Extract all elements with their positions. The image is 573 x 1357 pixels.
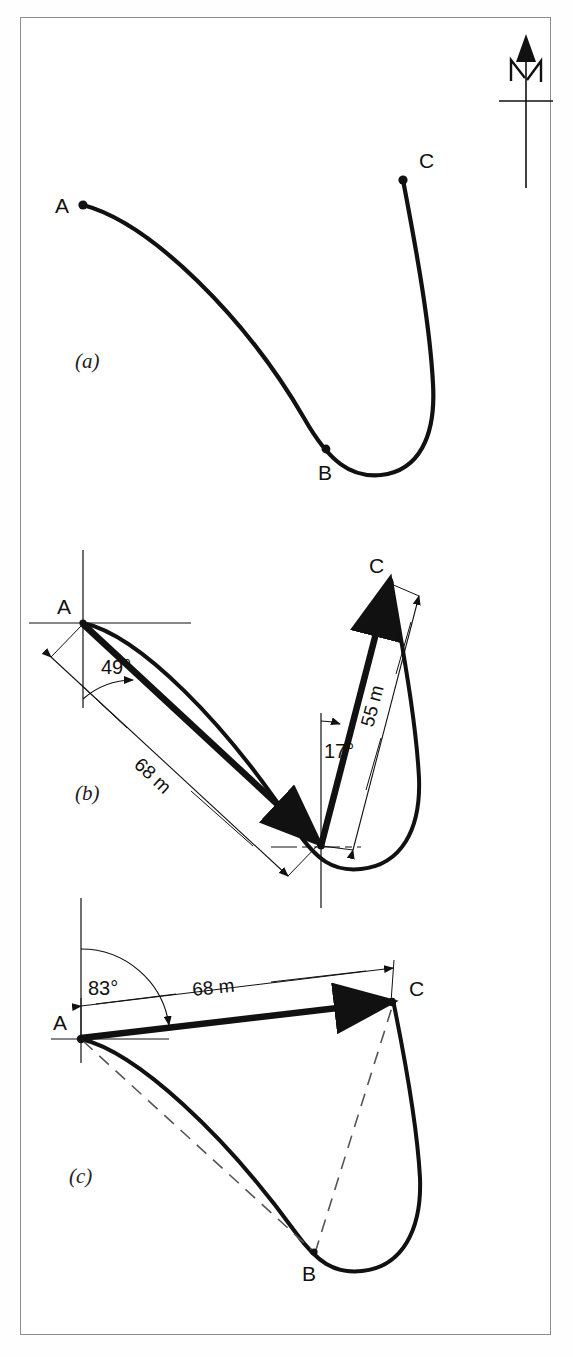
point-b-marker: [322, 445, 331, 454]
angle-arc-b: [321, 721, 340, 724]
point-a-label: A: [53, 1011, 67, 1034]
angle-a-label: 49°: [101, 656, 131, 678]
point-a-marker: [79, 619, 86, 626]
dim-ab-label: 68 m: [130, 754, 175, 798]
dim-ext-c: [391, 960, 394, 1002]
panel-c-label: (c): [69, 1164, 92, 1188]
dim-ext-b: [288, 844, 319, 876]
dim-leader-ab-1: [79, 683, 127, 728]
path-curve-abc: [83, 180, 433, 475]
panel-b: 49° 17° 68 m 55 m A B C (b): [21, 538, 552, 908]
dim-leader-ac-2: [271, 971, 366, 982]
dim-leader-bc-2: [366, 738, 381, 790]
point-b-label: B: [293, 804, 307, 827]
dim-ac-label: 68 m: [191, 975, 235, 1000]
panel-a: A B C (a): [21, 118, 552, 508]
point-b-marker: [317, 842, 324, 849]
dashed-chord-bc: [315, 1004, 393, 1253]
point-b-marker: [310, 1248, 317, 1255]
path-curve-abc: [81, 1000, 420, 1271]
point-c-marker: [386, 579, 393, 586]
point-b-label: B: [318, 461, 332, 484]
vector-ac: [81, 1002, 389, 1038]
panel-a-label: (a): [75, 349, 100, 373]
point-a-marker: [78, 200, 87, 209]
panel-b-label: (b): [75, 781, 100, 805]
point-c-label: C: [409, 977, 424, 1000]
angle-a-label: 83°: [88, 977, 118, 999]
point-c-label: C: [369, 554, 384, 577]
panel-c: 83° 68 m A B C (c): [21, 878, 552, 1288]
dim-ext-a: [51, 624, 83, 657]
point-a-label: A: [55, 194, 69, 217]
point-c-marker: [398, 175, 407, 184]
dim-leader-ab-2: [191, 791, 253, 846]
point-a-marker: [77, 1035, 85, 1043]
point-b-label: B: [302, 1262, 316, 1285]
point-a-label: A: [57, 595, 71, 618]
point-c-label: C: [419, 149, 434, 172]
dashed-chord-ab: [83, 1041, 313, 1251]
point-c-marker: [388, 998, 396, 1006]
angle-arc-a: [83, 680, 133, 699]
angle-b-label: 17°: [324, 740, 354, 762]
figure-frame: N A B C (a): [20, 17, 551, 1335]
